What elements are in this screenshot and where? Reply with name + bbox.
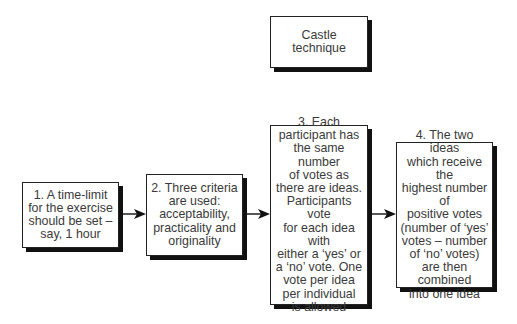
step-1-box: 1. A time-limit for the exercise should …	[22, 182, 119, 248]
step-2-text: 2. Three criteria are used: acceptabilit…	[151, 182, 238, 248]
step-1-text: 1. A time-limit for the exercise should …	[28, 189, 113, 242]
step-3-box: 3. Each participant has the same number …	[270, 125, 368, 305]
diagram-title: Castle technique	[274, 29, 364, 55]
title-box: Castle technique	[270, 16, 368, 68]
step-3-text: 3. Each participant has the same number …	[274, 116, 364, 314]
step-4-text: 4. The two ideas which receive the highe…	[400, 129, 489, 301]
arrow-step3-to-step4	[368, 208, 397, 220]
arrow-step1-to-step2	[119, 208, 147, 220]
step-2-box: 2. Three criteria are used: acceptabilit…	[146, 174, 243, 256]
arrow-step2-to-step3	[243, 208, 271, 220]
step-4-box: 4. The two ideas which receive the highe…	[396, 142, 493, 288]
